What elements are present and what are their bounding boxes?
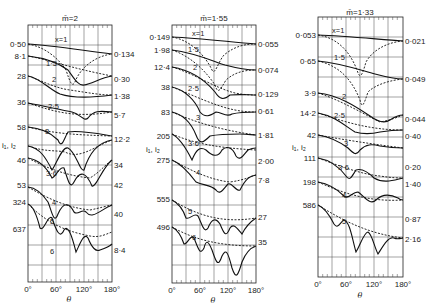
svg-text:120°: 120° xyxy=(366,280,383,289)
svg-text:0·021: 0·021 xyxy=(405,37,426,46)
svg-text:42: 42 xyxy=(114,181,123,190)
svg-text:2·16: 2·16 xyxy=(405,235,422,244)
svg-text:12·2: 12·2 xyxy=(114,135,131,144)
svg-text:5: 5 xyxy=(342,217,346,226)
svg-text:1·5: 1·5 xyxy=(46,59,57,68)
svg-text:5: 5 xyxy=(50,217,54,226)
svg-text:0·055: 0·055 xyxy=(258,40,279,49)
svg-text:8·4: 8·4 xyxy=(114,246,126,255)
svg-text:198: 198 xyxy=(303,178,317,187)
svg-text:x=1: x=1 xyxy=(192,29,204,38)
svg-text:53: 53 xyxy=(17,181,26,190)
left-values: 0·149 1·98 12·4 38 83 205 275 555 496 xyxy=(150,33,171,232)
svg-text:0·65: 0·65 xyxy=(300,57,317,66)
svg-text:1·5: 1·5 xyxy=(188,45,199,54)
svg-text:120°: 120° xyxy=(76,285,93,294)
curves xyxy=(318,35,403,254)
svg-text:555: 555 xyxy=(157,195,171,204)
svg-text:2: 2 xyxy=(342,92,346,101)
x-axis-label: θ xyxy=(211,296,216,305)
svg-text:83: 83 xyxy=(161,108,170,117)
svg-text:180°: 180° xyxy=(395,280,412,289)
svg-text:34: 34 xyxy=(114,161,123,170)
svg-text:0·50: 0·50 xyxy=(10,40,27,49)
svg-text:3: 3 xyxy=(45,127,49,136)
svg-text:6: 6 xyxy=(192,233,196,242)
svg-text:0·149: 0·149 xyxy=(150,33,171,42)
svg-text:4: 4 xyxy=(196,168,200,177)
svg-text:42: 42 xyxy=(307,131,316,140)
svg-text:2·5: 2·5 xyxy=(48,102,59,111)
svg-text:x=1: x=1 xyxy=(55,35,67,44)
panel-title: m̄=1·33 xyxy=(346,8,374,17)
svg-text:3: 3 xyxy=(344,139,348,148)
svg-text:6: 6 xyxy=(50,247,54,256)
x-axis-label: θ xyxy=(67,295,72,304)
x-axis-ticks: 0° 60° 120° 180° xyxy=(24,285,120,294)
svg-text:5·7: 5·7 xyxy=(114,111,126,120)
scattering-figure: m̄=2 xyxy=(0,0,433,306)
svg-text:1·38: 1·38 xyxy=(114,92,131,101)
svg-text:38: 38 xyxy=(161,83,170,92)
svg-text:3: 3 xyxy=(196,113,200,122)
svg-text:3·6: 3·6 xyxy=(188,139,199,148)
svg-text:36: 36 xyxy=(17,98,26,107)
left-values: 0·053 0·65 3·9 14·2 42 111 198 586 xyxy=(296,31,317,210)
svg-text:324: 324 xyxy=(13,198,27,207)
svg-text:0·20: 0·20 xyxy=(405,163,422,172)
svg-text:0°: 0° xyxy=(168,286,176,295)
panel-title: m̄=2 xyxy=(62,14,78,23)
svg-text:0·074: 0·074 xyxy=(258,66,279,75)
y-axis-label: i₁, i₂ xyxy=(2,141,16,150)
left-values: 0·50 8·1 28 36 58 46 53 324 637 xyxy=(10,40,27,234)
svg-text:35: 35 xyxy=(258,238,267,247)
svg-text:3·9: 3·9 xyxy=(304,89,316,98)
svg-text:205: 205 xyxy=(157,132,171,141)
panel-m-1-33: m̄=1·33 0·053 0·65 xyxy=(292,8,426,300)
svg-text:12·4: 12·4 xyxy=(154,63,171,72)
svg-text:8·1: 8·1 xyxy=(14,52,26,61)
svg-text:2: 2 xyxy=(52,75,56,84)
svg-text:0·053: 0·053 xyxy=(296,31,317,40)
svg-text:0·87: 0·87 xyxy=(405,215,422,224)
svg-text:180°: 180° xyxy=(248,286,265,295)
svg-text:4: 4 xyxy=(52,198,56,207)
svg-text:14·2: 14·2 xyxy=(300,109,317,118)
svg-text:275: 275 xyxy=(157,156,171,165)
svg-text:120°: 120° xyxy=(220,286,237,295)
right-values: 0·134 0·30 1·38 5·7 12·2 34 42 40 8·4 xyxy=(114,50,135,255)
svg-text:0°: 0° xyxy=(314,280,322,289)
svg-text:2: 2 xyxy=(193,63,197,72)
y-axis-label: i₁, i₂ xyxy=(292,143,306,152)
svg-text:180°: 180° xyxy=(104,285,121,294)
panel-m-2: m̄=2 xyxy=(2,14,135,304)
svg-text:1·40: 1·40 xyxy=(405,180,422,189)
svg-text:40: 40 xyxy=(114,210,123,219)
svg-text:1·98: 1·98 xyxy=(154,46,171,55)
svg-text:3·6: 3·6 xyxy=(46,169,57,178)
svg-text:0·044: 0·044 xyxy=(405,115,426,124)
svg-text:0·30: 0·30 xyxy=(114,75,131,84)
svg-text:60°: 60° xyxy=(340,280,352,289)
svg-text:2·00: 2·00 xyxy=(258,157,275,166)
svg-text:1·5: 1·5 xyxy=(334,53,345,62)
svg-text:111: 111 xyxy=(304,154,317,163)
svg-text:1·81: 1·81 xyxy=(258,131,275,140)
svg-text:4: 4 xyxy=(342,191,346,200)
svg-text:0·40: 0·40 xyxy=(405,132,422,141)
svg-text:60°: 60° xyxy=(50,285,62,294)
svg-text:46: 46 xyxy=(17,156,26,165)
panel-m-1-55: m̄=1·55 0·149 xyxy=(146,14,279,305)
right-values: 0·021 0·049 0·044 0·40 0·20 1·40 0·87 2·… xyxy=(405,37,426,244)
svg-text:0·049: 0·049 xyxy=(405,75,426,84)
svg-text:0°: 0° xyxy=(24,285,32,294)
y-axis-label: i₁, i₂ xyxy=(146,145,160,154)
x-axis-ticks: 0° 60° 120° 180° xyxy=(314,280,411,289)
panel-title: m̄=1·55 xyxy=(200,14,228,23)
svg-text:3·6: 3·6 xyxy=(338,163,349,172)
svg-text:2·5: 2·5 xyxy=(334,111,345,120)
svg-text:7·8: 7·8 xyxy=(258,176,270,185)
svg-text:586: 586 xyxy=(303,201,317,210)
svg-text:496: 496 xyxy=(157,223,171,232)
svg-text:5: 5 xyxy=(188,207,192,216)
